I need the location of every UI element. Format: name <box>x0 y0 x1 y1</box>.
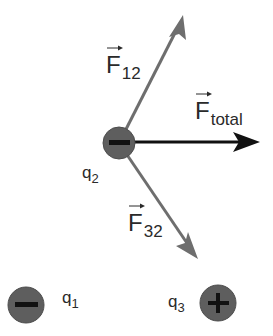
label-ftotal: Ftotal <box>195 99 242 123</box>
label-ftotal-main: F <box>195 97 210 124</box>
diagram-svg <box>0 0 273 336</box>
label-f32-sub: 32 <box>144 222 163 241</box>
charge-q2 <box>103 127 135 159</box>
arrowhead-f12-icon <box>169 15 186 40</box>
charge-q1 <box>8 287 44 323</box>
label-ftotal-sub: total <box>211 110 243 129</box>
vector-arrow-icon <box>196 91 212 97</box>
vector-arrow-icon <box>129 203 145 209</box>
label-q3-sub: 3 <box>177 300 184 315</box>
label-f32: F32 <box>128 211 162 235</box>
arrowhead-f32-icon <box>176 232 198 259</box>
label-q3: q3 <box>168 293 185 310</box>
minus-sign-icon <box>109 140 130 145</box>
vector-f32 <box>119 143 198 259</box>
label-f12: F12 <box>106 53 140 77</box>
label-f12-sub: 12 <box>122 64 141 83</box>
label-f32-main: F <box>128 209 143 236</box>
minus-sign-icon <box>15 302 38 307</box>
label-q1-sub: 1 <box>71 296 78 311</box>
vector-ftotal <box>119 132 260 152</box>
vector-arrow-icon <box>107 45 123 51</box>
label-f12-main: F <box>106 51 121 78</box>
label-q2-sub: 2 <box>91 171 98 186</box>
charge-q3 <box>200 285 236 321</box>
diagram-canvas: F12 Ftotal F32 q2 q1 q3 <box>0 0 273 336</box>
label-q1: q1 <box>62 289 79 306</box>
label-q2: q2 <box>82 164 99 181</box>
plus-sign-vertical-icon <box>216 293 220 313</box>
